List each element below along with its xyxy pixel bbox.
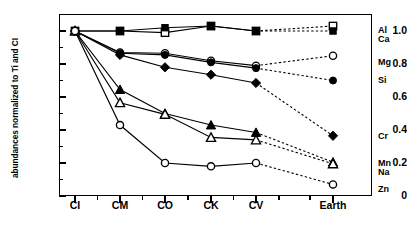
series-line-dashed-Zn (256, 163, 333, 184)
chart-figure: abundances normalized to Ti and CI 00.20… (0, 0, 407, 227)
legend-item-Ca: Ca (378, 34, 390, 44)
legend-label: Cr (378, 131, 388, 141)
series-line-dashed-Mg (256, 56, 333, 66)
series-line-dashed-Na (256, 140, 333, 164)
series-Si (72, 28, 337, 85)
data-point-filled-square (330, 28, 336, 34)
data-point-filled-circle (208, 59, 215, 66)
data-point-filled-diamond (206, 70, 215, 79)
series-line-solid-Na (75, 31, 256, 140)
series-Zn (71, 27, 336, 188)
data-point-filled-diamond (251, 78, 260, 87)
plot-data-layer (0, 0, 407, 227)
data-point-filled-circle (162, 51, 169, 58)
data-point-filled-square (253, 28, 259, 34)
legend-item-Cr: Cr (378, 131, 388, 141)
series-line-dashed-Mn (256, 132, 333, 162)
series-line-dashed-Cr (256, 83, 333, 136)
series-line-dashed-Si (256, 68, 333, 80)
legend-label: Mg (378, 57, 391, 67)
legend-label: Si (378, 75, 387, 85)
legend-item-Na: Na (378, 167, 390, 177)
data-point-filled-circle (253, 65, 260, 72)
data-point-open-circle (329, 181, 336, 188)
data-point-filled-circle (330, 77, 337, 84)
legend-item-Mg: Mg (378, 57, 391, 67)
legend-item-Si: Si (378, 75, 387, 85)
data-point-open-circle (252, 159, 259, 166)
data-point-filled-square (162, 25, 168, 31)
data-point-filled-diamond (160, 63, 169, 72)
series-Ca (72, 23, 336, 34)
legend-label: Na (378, 167, 390, 177)
series-Al (71, 22, 336, 36)
data-point-open-circle (207, 163, 214, 170)
legend-label: Ca (378, 34, 390, 44)
data-point-open-circle (329, 52, 336, 59)
data-point-open-circle (161, 159, 168, 166)
legend-item-Zn: Zn (378, 184, 389, 194)
data-point-filled-diamond (328, 131, 337, 140)
data-point-open-triangle (115, 98, 124, 107)
legend-label: Zn (378, 184, 389, 194)
data-point-open-circle (71, 27, 78, 34)
data-point-filled-square (117, 28, 123, 34)
data-point-open-circle (116, 121, 123, 128)
series-line-dashed-Al (256, 26, 333, 31)
data-point-filled-square (208, 23, 214, 29)
